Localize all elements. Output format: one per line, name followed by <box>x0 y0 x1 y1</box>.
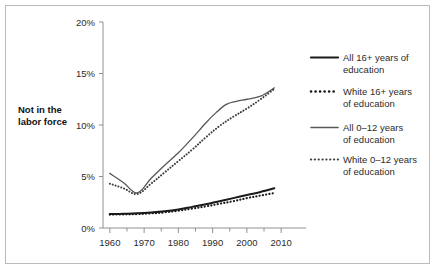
y-tick-label: 5% <box>81 171 95 182</box>
x-tick-label: 2000 <box>236 237 257 248</box>
axis-title-group: Not in the labor force <box>18 104 67 127</box>
y-tick-label: 0% <box>81 223 95 234</box>
data-series-group <box>110 88 274 215</box>
x-tick-label: 2010 <box>271 237 292 248</box>
y-tick-label: 15% <box>76 68 96 79</box>
chart-legend: All 16+ years ofeducationWhite 16+ years… <box>311 52 417 177</box>
series-line-2 <box>110 88 274 193</box>
x-tick-label: 1980 <box>168 237 189 248</box>
legend-label-0-line2: education <box>343 64 384 75</box>
series-line-1 <box>110 193 274 215</box>
chart-figure: Not in the labor force 0%5%10%15%20% 196… <box>0 0 435 269</box>
legend-label-2-line1: All 0–12 years <box>343 122 403 133</box>
series-line-3 <box>110 89 274 194</box>
x-tick-label: 1960 <box>99 237 120 248</box>
x-tick-label: 1990 <box>202 237 223 248</box>
y-tick-label: 20% <box>76 17 96 28</box>
y-axis-title-line2: labor force <box>18 116 67 127</box>
legend-label-1-line1: White 16+ years <box>343 86 412 97</box>
y-axis-tick-labels: 0%5%10%15%20% <box>76 17 96 234</box>
legend-label-0-line1: All 16+ years of <box>343 52 409 63</box>
line-chart: Not in the labor force 0%5%10%15%20% 196… <box>0 0 435 269</box>
legend-label-3-line2: of education <box>343 166 395 177</box>
y-axis-title-line1: Not in the <box>18 104 62 115</box>
legend-label-3-line1: White 0–12 years <box>343 154 417 165</box>
x-axis-tick-labels: 196019701980199020002010 <box>99 237 291 248</box>
legend-label-1-line2: of education <box>343 98 395 109</box>
x-tick-label: 1970 <box>134 237 155 248</box>
y-tick-label: 10% <box>76 120 96 131</box>
legend-label-2-line2: of education <box>343 134 395 145</box>
